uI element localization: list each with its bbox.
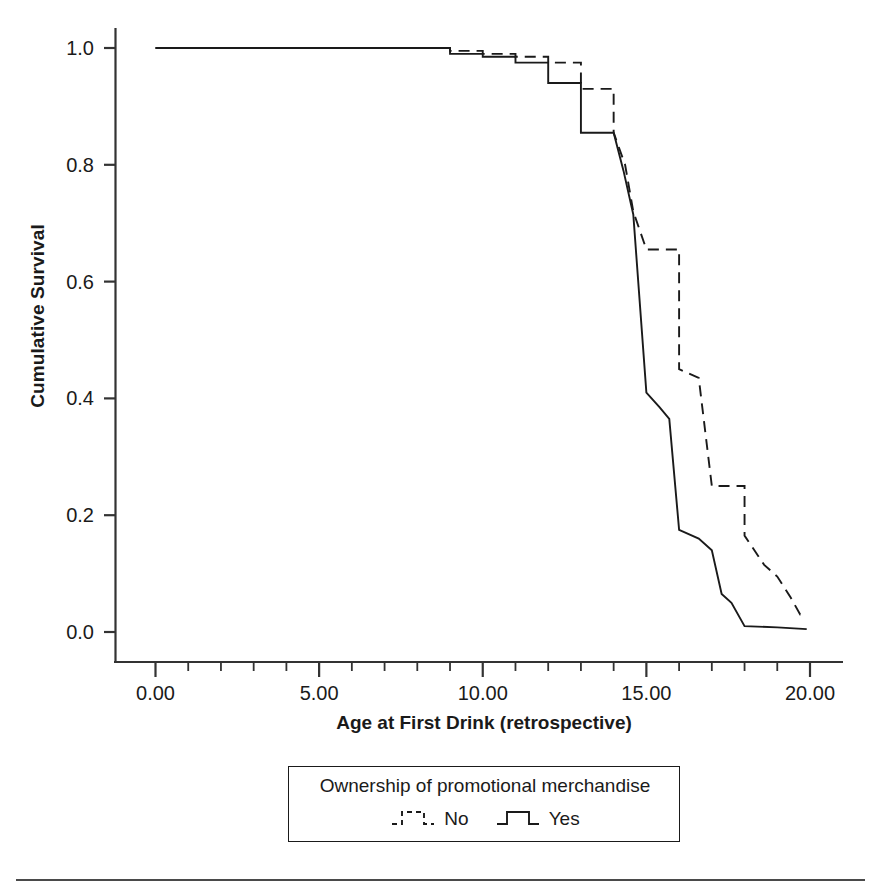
legend-swatch-dashed-icon: [390, 807, 436, 829]
legend-swatch-solid-icon: [495, 807, 541, 829]
x-axis-title: Age at First Drink (retrospective): [156, 712, 812, 734]
y-tick-label: 0.4: [36, 388, 94, 408]
x-tick-label: 15.00: [591, 683, 701, 703]
y-tick-label: 0.0: [36, 622, 94, 642]
plot-area: [0, 0, 872, 700]
axis-lines: [114, 28, 843, 663]
legend-entry-no: No: [390, 807, 468, 829]
y-tick-label: 1.0: [36, 38, 94, 58]
series-layer: [156, 48, 807, 629]
x-tick-label: 5.00: [264, 683, 374, 703]
bottom-divider: [16, 879, 865, 881]
legend-label-yes: Yes: [549, 809, 580, 828]
x-tick-label: 0.00: [101, 683, 211, 703]
x-axis-ticks: [156, 662, 811, 677]
series-line-yes: [156, 48, 807, 629]
y-tick-label: 0.8: [36, 155, 94, 175]
y-axis-ticks: [104, 48, 115, 632]
survival-chart-figure: Cumulative Survival 0.00.20.40.60.81.0 0…: [0, 0, 872, 894]
legend-label-no: No: [444, 809, 468, 828]
legend: Ownership of promotional merchandise No …: [288, 766, 680, 842]
x-tick-label: 20.00: [755, 683, 865, 703]
legend-title: Ownership of promotional merchandise: [289, 775, 681, 797]
legend-entry-yes: Yes: [495, 807, 580, 829]
x-tick-label: 10.00: [428, 683, 538, 703]
y-tick-label: 0.2: [36, 505, 94, 525]
legend-entries: No Yes: [289, 807, 681, 829]
series-line-no: [156, 48, 807, 614]
y-tick-label: 0.6: [36, 272, 94, 292]
